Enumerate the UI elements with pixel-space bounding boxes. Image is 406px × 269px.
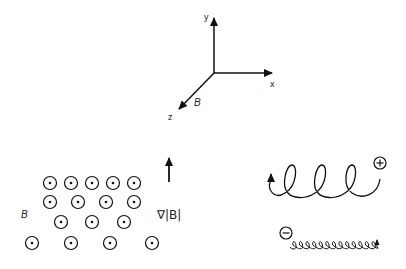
field-dots: [26, 177, 159, 250]
positive-particle-helix: [270, 157, 386, 198]
z-axis-label: z: [168, 112, 173, 122]
y-axis-label: y: [204, 12, 209, 22]
diagram-canvas: [0, 0, 406, 269]
gradient-label: ∇|B|: [157, 208, 181, 222]
field-region-label: B: [21, 209, 28, 220]
x-axis-label: x: [270, 79, 275, 89]
negative-particle-helix: [280, 227, 378, 249]
coordinate-axes: [179, 18, 272, 109]
axis-field-label: B: [194, 97, 201, 108]
